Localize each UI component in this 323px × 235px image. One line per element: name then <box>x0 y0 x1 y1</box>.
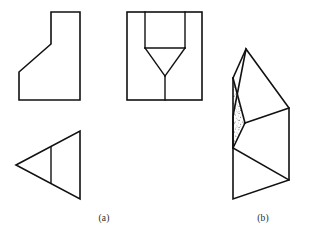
pictorial-top-left-edge <box>233 49 246 78</box>
pictorial-bottom-front-edge <box>233 148 289 180</box>
side-view-vee-left-line <box>145 48 165 76</box>
technical-drawing-figure: (a) (b) <box>0 0 323 235</box>
front-view-stepped-block <box>19 12 80 100</box>
side-view-group <box>127 12 202 100</box>
front-view-group <box>19 12 80 100</box>
top-view-group <box>16 131 80 199</box>
figure-canvas: (a) (b) <box>0 0 323 235</box>
view-label-b: (b) <box>257 213 269 224</box>
top-view-triangle <box>16 131 80 199</box>
pictorial-top-face-front-edge <box>245 108 289 123</box>
side-view-vee-right-line <box>165 48 185 76</box>
view-label-a: (a) <box>98 213 109 224</box>
pictorial-view-group <box>233 49 289 199</box>
